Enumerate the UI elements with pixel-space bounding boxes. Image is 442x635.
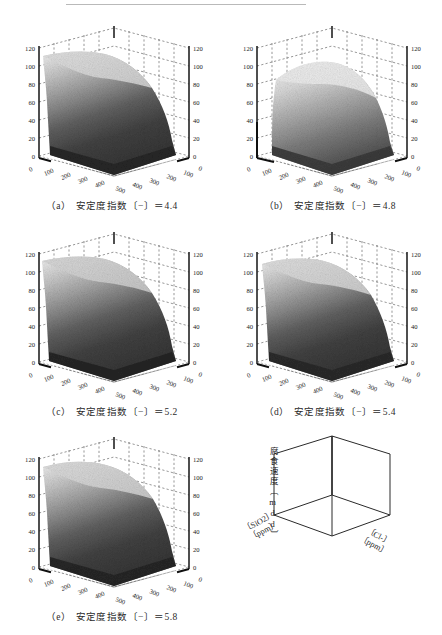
z-ticklabels-right-d: 120 100 80 60 40 20 0 xyxy=(411,251,422,366)
figure-caption-c: （c）安定度指数〔−〕＝5.2 xyxy=(6,404,218,418)
svg-text:20: 20 xyxy=(246,341,253,348)
svg-text:500: 500 xyxy=(333,184,345,194)
svg-text:20: 20 xyxy=(28,341,35,348)
svg-text:200: 200 xyxy=(278,170,290,180)
svg-text:300: 300 xyxy=(295,174,307,184)
svg-text:20: 20 xyxy=(193,341,200,348)
svg-text:300: 300 xyxy=(367,382,379,392)
svg-text:80: 80 xyxy=(28,81,35,88)
svg-text:120: 120 xyxy=(193,251,204,258)
svg-text:300: 300 xyxy=(367,176,379,186)
svg-text:0: 0 xyxy=(411,153,415,160)
svg-text:300: 300 xyxy=(149,587,161,597)
surface-plot-a: 120 100 80 60 40 20 0 120 100 80 60 40 2… xyxy=(6,22,218,198)
svg-text:60: 60 xyxy=(28,510,35,517)
svg-text:200: 200 xyxy=(60,170,72,180)
svg-text:200: 200 xyxy=(60,581,72,591)
z-ticklabels-left-c: 120 100 80 60 40 20 0 xyxy=(25,251,36,366)
svg-text:100: 100 xyxy=(193,63,204,70)
svg-text:200: 200 xyxy=(384,172,396,182)
z-ticklabels-left-e: 120 100 80 60 40 20 0 xyxy=(25,456,36,571)
svg-text:400: 400 xyxy=(350,180,362,190)
svg-text:120: 120 xyxy=(243,45,254,52)
svg-text:0: 0 xyxy=(32,564,36,571)
svg-text:60: 60 xyxy=(28,305,35,312)
svg-text:300: 300 xyxy=(77,174,89,184)
svg-text:60: 60 xyxy=(411,305,418,312)
svg-text:100: 100 xyxy=(193,269,204,276)
svg-text:40: 40 xyxy=(246,117,253,124)
surface-plot-e: 120 100 80 60 40 20 0 120 100 80 60 40 2… xyxy=(6,433,218,609)
plot-canvas-d: 120 100 80 60 40 20 0 120 100 80 60 40 2… xyxy=(224,228,436,404)
svg-text:0: 0 xyxy=(250,359,254,366)
surface-mesh-e xyxy=(43,462,176,586)
svg-text:0: 0 xyxy=(416,370,422,378)
svg-text:60: 60 xyxy=(28,99,35,106)
svg-text:20: 20 xyxy=(193,135,200,142)
svg-text:20: 20 xyxy=(28,135,35,142)
svg-text:400: 400 xyxy=(132,386,144,396)
svg-text:100: 100 xyxy=(401,374,413,384)
svg-text:200: 200 xyxy=(60,376,72,386)
caption-index-c: （c） xyxy=(46,407,70,417)
figure-caption-d: （d）安定度指数〔−〕＝5.4 xyxy=(224,404,436,418)
svg-text:60: 60 xyxy=(246,99,253,106)
svg-text:100: 100 xyxy=(43,166,55,176)
svg-text:100: 100 xyxy=(43,577,55,587)
svg-text:0: 0 xyxy=(28,576,34,584)
svg-text:500: 500 xyxy=(115,184,127,194)
figure-b: 120 100 80 60 40 20 0 120 100 80 60 40 2… xyxy=(224,22,436,227)
svg-text:100: 100 xyxy=(25,269,36,276)
z-ticklabels-left-a: 120 100 80 60 40 20 0 xyxy=(25,45,36,160)
z-ticklabels-right-c: 120 100 80 60 40 20 0 xyxy=(193,251,204,366)
svg-text:100: 100 xyxy=(183,374,195,384)
plot-canvas-e: 120 100 80 60 40 20 0 120 100 80 60 40 2… xyxy=(6,433,218,609)
svg-text:40: 40 xyxy=(28,117,35,124)
figure-page: 120 100 80 60 40 20 0 120 100 80 60 40 2… xyxy=(0,0,442,635)
z-ticklabels-left-b: 120 100 80 60 40 20 0 xyxy=(243,45,254,160)
svg-text:80: 80 xyxy=(193,287,200,294)
figure-c: 120 100 80 60 40 20 0 120 100 80 60 40 2… xyxy=(6,228,218,433)
surface-plot-c: 120 100 80 60 40 20 0 120 100 80 60 40 2… xyxy=(6,228,218,404)
svg-text:80: 80 xyxy=(411,287,418,294)
svg-text:40: 40 xyxy=(28,323,35,330)
svg-text:80: 80 xyxy=(246,287,253,294)
svg-text:40: 40 xyxy=(411,323,418,330)
svg-text:80: 80 xyxy=(28,492,35,499)
z-ticklabels-right-b: 120 100 80 60 40 20 0 xyxy=(411,45,422,160)
svg-text:0: 0 xyxy=(32,153,36,160)
caption-text-d: 安定度指数〔−〕＝5.4 xyxy=(294,407,396,417)
figure-a: 120 100 80 60 40 20 0 120 100 80 60 40 2… xyxy=(6,22,218,227)
svg-text:500: 500 xyxy=(115,390,127,400)
svg-text:120: 120 xyxy=(411,251,422,258)
svg-text:300: 300 xyxy=(149,176,161,186)
svg-text:400: 400 xyxy=(132,591,144,601)
svg-text:0: 0 xyxy=(246,371,252,379)
svg-text:120: 120 xyxy=(25,456,36,463)
caption-index-b: （b） xyxy=(264,201,289,211)
caption-index-a: （a） xyxy=(46,201,70,211)
svg-text:100: 100 xyxy=(193,474,204,481)
svg-text:400: 400 xyxy=(312,178,324,188)
x-ticklabels-b: 0 100 200 300 400 xyxy=(246,165,324,189)
svg-text:100: 100 xyxy=(25,474,36,481)
svg-text:0: 0 xyxy=(198,575,204,583)
svg-text:400: 400 xyxy=(350,386,362,396)
surface-mesh-d xyxy=(262,259,394,381)
svg-text:0: 0 xyxy=(198,164,204,172)
svg-text:400: 400 xyxy=(132,180,144,190)
svg-text:100: 100 xyxy=(243,269,254,276)
svg-text:500: 500 xyxy=(115,595,127,605)
svg-text:400: 400 xyxy=(94,384,106,394)
svg-text:100: 100 xyxy=(43,372,55,382)
svg-text:100: 100 xyxy=(183,579,195,589)
svg-text:80: 80 xyxy=(411,81,418,88)
svg-text:100: 100 xyxy=(411,269,422,276)
svg-text:0: 0 xyxy=(193,153,197,160)
axis-legend-cube: 腐食速度〔mdd〕 〔SiO2〕 〔ppm〕 〔Cl-〕 〔ppm〕 xyxy=(224,433,436,623)
svg-text:0: 0 xyxy=(250,153,254,160)
surface-plot-d: 120 100 80 60 40 20 0 120 100 80 60 40 2… xyxy=(224,228,436,404)
svg-text:100: 100 xyxy=(25,63,36,70)
caption-text-b: 安定度指数〔−〕＝4.8 xyxy=(294,201,396,211)
svg-text:60: 60 xyxy=(193,99,200,106)
